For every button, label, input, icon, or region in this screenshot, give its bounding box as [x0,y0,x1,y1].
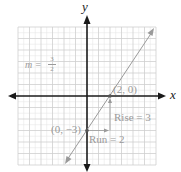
coordinate-plane [0,0,181,172]
point-label-2-0: (2, 0) [113,84,137,95]
slope-denominator: 2 [48,65,56,73]
rise-label: Rise = 3 [114,112,151,123]
slope-fraction: 3 2 [48,56,56,73]
point-2-0 [108,94,112,98]
slope-label: m = [25,60,41,70]
run-arrowhead-icon [104,129,109,133]
x-axis-label: x [170,88,176,101]
rise-arrowhead-icon [108,98,112,103]
slope-lhs: m = [25,59,41,70]
point-0-neg3 [85,129,89,133]
y-axis-up-arrow-icon [84,15,91,24]
run-label: Run = 2 [89,134,125,145]
x-axis-right-arrow-icon [158,93,166,100]
line-arrow-lower-icon [65,156,72,164]
rise-arrow [108,98,112,131]
y-axis-down-arrow-icon [84,164,91,172]
line-arrow-upper-icon [148,28,155,36]
x-axis-left-arrow-icon [8,93,16,100]
y-axis-label: y [82,0,88,13]
slope-numerator: 3 [48,56,56,65]
point-label-0-neg3: (0, −3) [51,124,81,135]
